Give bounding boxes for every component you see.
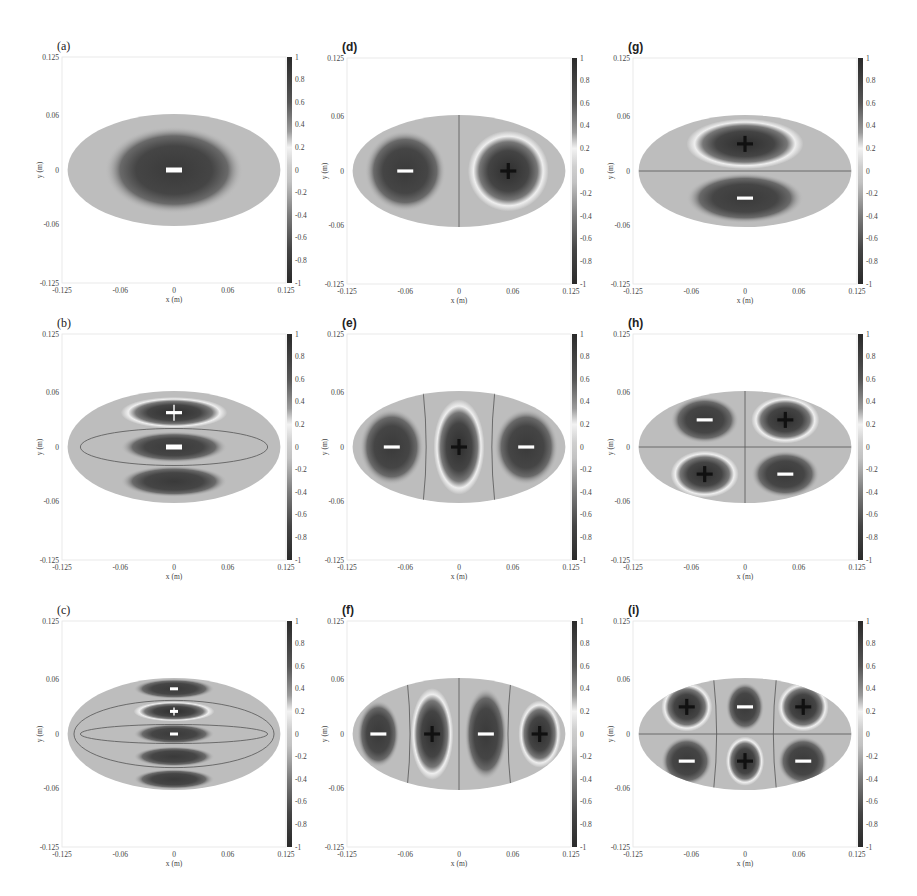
y-tick-label: 0 bbox=[626, 443, 630, 452]
x-axis-label: x (m) bbox=[737, 859, 754, 868]
x-tick-label: 0 bbox=[172, 850, 176, 859]
colorbar-tick-label: -0.6 bbox=[866, 797, 878, 806]
colorbar-tick-label: -0.4 bbox=[295, 211, 307, 220]
colorbar-tick-label: 1 bbox=[580, 330, 584, 339]
colorbar-tick-label: 0 bbox=[866, 730, 870, 739]
x-axis-label: x (m) bbox=[451, 296, 468, 305]
y-tick-label: -0.06 bbox=[43, 497, 59, 506]
colorbar-tick-label: 0.8 bbox=[295, 75, 305, 84]
panel-b: 10.80.60.40.20-0.2-0.4-0.6-0.8-1-0.125-0… bbox=[35, 330, 307, 582]
colorbar-tick-label: 0.8 bbox=[866, 76, 876, 85]
colorbar-tick-label: -0.2 bbox=[295, 752, 307, 761]
colorbar-tick-label: 0.6 bbox=[866, 662, 876, 671]
y-tick-label: -0.125 bbox=[40, 556, 60, 565]
y-axis-label: y (m) bbox=[320, 162, 329, 179]
y-axis-label: y (m) bbox=[320, 438, 329, 455]
colorbar-tick-label: -0.8 bbox=[295, 256, 307, 265]
colorbar-tick-label: 0 bbox=[580, 730, 584, 739]
colorbar bbox=[572, 58, 577, 284]
x-tick-label: 0.06 bbox=[221, 850, 234, 859]
y-tick-label: -0.06 bbox=[614, 784, 630, 793]
x-tick-label: 0.125 bbox=[278, 850, 295, 859]
y-tick-label: -0.06 bbox=[614, 221, 630, 230]
panel-label-f: (f) bbox=[342, 603, 354, 617]
colorbar-tick-label: -0.2 bbox=[580, 189, 592, 198]
y-tick-label: 0.125 bbox=[327, 330, 344, 339]
y-tick-label: 0.125 bbox=[327, 617, 344, 626]
colorbar-tick-label: -0.6 bbox=[295, 797, 307, 806]
colorbar-tick-label: -0.2 bbox=[295, 465, 307, 474]
x-tick-label: 0.125 bbox=[849, 850, 866, 859]
colorbar-tick-label: 0 bbox=[866, 443, 870, 452]
y-tick-label: 0 bbox=[55, 443, 59, 452]
colorbar-tick-label: -1 bbox=[866, 280, 872, 289]
y-tick-label: 0.125 bbox=[613, 54, 630, 63]
y-tick-label: 0 bbox=[626, 730, 630, 739]
panel-i: 10.80.60.40.20-0.2-0.4-0.6-0.8-1-0.125-0… bbox=[606, 617, 878, 869]
x-tick-label: -0.06 bbox=[683, 850, 699, 859]
y-axis-label: y (m) bbox=[320, 725, 329, 742]
panel-label-e: (e) bbox=[342, 316, 357, 330]
x-tick-label: 0 bbox=[457, 850, 461, 859]
colorbar bbox=[287, 621, 292, 847]
colorbar-tick-label: -0.2 bbox=[866, 465, 878, 474]
colorbar-tick-label: -0.6 bbox=[866, 510, 878, 519]
colorbar bbox=[287, 334, 292, 560]
colorbar-tick-label: 1 bbox=[866, 617, 870, 626]
colorbar bbox=[572, 621, 577, 847]
x-tick-label: 0.125 bbox=[849, 563, 866, 572]
y-tick-label: 0.06 bbox=[331, 388, 344, 397]
y-axis-label: y (m) bbox=[35, 725, 44, 742]
panel-a: 10.80.60.40.20-0.2-0.4-0.6-0.8-1-0.125-0… bbox=[35, 53, 307, 305]
x-tick-label: 0 bbox=[457, 287, 461, 296]
colorbar-tick-label: 0 bbox=[580, 167, 584, 176]
mode-lobe bbox=[121, 466, 227, 497]
x-tick-label: 0 bbox=[743, 287, 747, 296]
panel-h: 10.80.60.40.20-0.2-0.4-0.6-0.8-1-0.125-0… bbox=[606, 330, 878, 582]
colorbar-tick-label: 0.8 bbox=[866, 352, 876, 361]
colorbar-tick-label: 0.2 bbox=[580, 144, 590, 153]
x-tick-label: 0 bbox=[743, 563, 747, 572]
colorbar-tick-label: -0.8 bbox=[866, 257, 878, 266]
panel-label-i: (i) bbox=[628, 603, 639, 617]
colorbar-tick-label: 0.8 bbox=[866, 639, 876, 648]
panel-label-c: (c) bbox=[57, 603, 70, 618]
colorbar-tick-label: 0.4 bbox=[295, 120, 305, 129]
x-axis-label: x (m) bbox=[451, 859, 468, 868]
colorbar-tick-label: -0.2 bbox=[866, 189, 878, 198]
x-tick-label: 0.06 bbox=[506, 850, 519, 859]
mode-lobe bbox=[134, 769, 215, 789]
colorbar bbox=[858, 334, 863, 560]
panel-d: 10.80.60.40.20-0.2-0.4-0.6-0.8-1-0.125-0… bbox=[320, 54, 592, 306]
colorbar-tick-label: -0.4 bbox=[295, 775, 307, 784]
y-tick-label: -0.125 bbox=[40, 843, 60, 852]
x-tick-label: 0 bbox=[457, 563, 461, 572]
colorbar-tick-label: 1 bbox=[866, 330, 870, 339]
panel-label-b: (b) bbox=[57, 316, 71, 331]
colorbar-tick-label: 0.8 bbox=[295, 352, 305, 361]
colorbar-tick-label: 0.4 bbox=[866, 684, 876, 693]
x-axis-label: x (m) bbox=[166, 859, 183, 868]
colorbar bbox=[287, 57, 292, 283]
colorbar-tick-label: -0.2 bbox=[580, 752, 592, 761]
y-tick-label: 0 bbox=[340, 443, 344, 452]
colorbar-tick-label: 1 bbox=[866, 54, 870, 63]
colorbar-tick-label: 0 bbox=[295, 443, 299, 452]
colorbar-tick-label: -0.6 bbox=[866, 234, 878, 243]
colorbar-tick-label: 0.4 bbox=[580, 121, 590, 130]
panel-label-d: (d) bbox=[342, 40, 357, 54]
colorbar-tick-label: 0.2 bbox=[295, 707, 305, 716]
colorbar-tick-label: -1 bbox=[866, 556, 872, 565]
colorbar-tick-label: 1 bbox=[295, 330, 299, 339]
y-tick-label: 0.06 bbox=[46, 675, 59, 684]
y-tick-label: -0.125 bbox=[611, 843, 631, 852]
x-tick-label: 0.125 bbox=[563, 287, 580, 296]
colorbar-tick-label: 0.2 bbox=[580, 707, 590, 716]
colorbar-tick-label: 0.6 bbox=[866, 375, 876, 384]
colorbar-tick-label: -1 bbox=[580, 556, 586, 565]
y-tick-label: 0.06 bbox=[46, 388, 59, 397]
y-tick-label: 0.06 bbox=[617, 388, 630, 397]
x-tick-label: 0.06 bbox=[506, 287, 519, 296]
panel-g: 10.80.60.40.20-0.2-0.4-0.6-0.8-1-0.125-0… bbox=[606, 54, 878, 306]
colorbar bbox=[858, 621, 863, 847]
